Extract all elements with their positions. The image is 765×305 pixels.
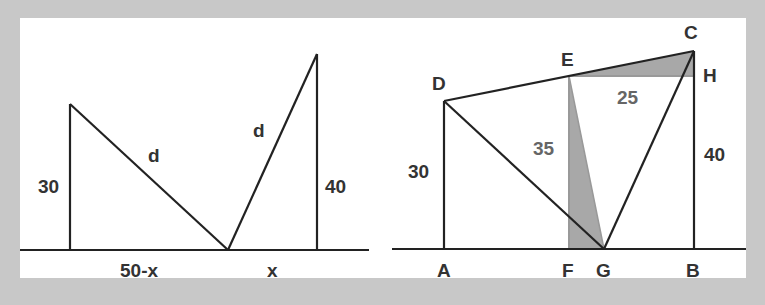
label-right-base: x (267, 261, 278, 280)
label-point-F: F (562, 261, 574, 280)
label-right-hyp: d (253, 121, 265, 140)
label-point-E: E (561, 50, 574, 69)
label-length-AD: 30 (408, 162, 429, 181)
right-hyp-d (228, 54, 317, 250)
label-point-G: G (596, 261, 611, 280)
label-point-C: C (684, 23, 698, 42)
label-length-EH: 25 (617, 88, 638, 107)
label-length-BC: 40 (704, 145, 725, 164)
label-length-EF: 35 (533, 139, 554, 158)
left-hyp-d (70, 104, 228, 250)
label-point-D: D (432, 74, 446, 93)
segment-GC (604, 51, 694, 249)
label-point-B: B (686, 261, 700, 280)
label-point-A: A (437, 261, 451, 280)
diagram-lines (0, 0, 765, 305)
left-figure (20, 54, 369, 250)
label-right-height: 40 (325, 177, 346, 196)
label-point-H: H (703, 66, 717, 85)
label-left-base: 50-x (120, 261, 158, 280)
label-left-height: 30 (38, 177, 59, 196)
label-left-hyp: d (148, 146, 160, 165)
